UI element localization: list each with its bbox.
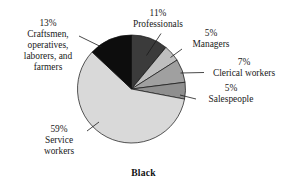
label-professionals: 11% Professionals xyxy=(110,8,206,30)
label-professionals-pct: 11% xyxy=(110,8,206,19)
label-clerical-workers: 7% Clerical workers xyxy=(203,57,285,79)
label-craftsmen-name-line3: laborers, and xyxy=(5,51,91,62)
leader-line-clerical-workers xyxy=(181,73,205,74)
label-clerical-workers-pct: 7% xyxy=(203,57,285,68)
label-craftsmen: 13% Craftsmen, operatives, laborers, and… xyxy=(5,18,91,73)
label-managers-name: Managers xyxy=(178,39,244,50)
label-craftsmen-pct: 13% xyxy=(5,18,91,29)
label-managers: 5% Managers xyxy=(178,28,244,50)
label-service-workers: 59% Service workers xyxy=(28,124,90,157)
chart-title: Black xyxy=(0,167,287,178)
label-craftsmen-name-line2: operatives, xyxy=(5,40,91,51)
label-service-workers-name-line1: Service xyxy=(28,135,90,146)
pie-slices xyxy=(77,35,185,143)
label-managers-pct: 5% xyxy=(178,28,244,39)
label-craftsmen-name-line4: farmers xyxy=(5,62,91,73)
label-salespeople: 5% Salespeople xyxy=(193,83,269,105)
label-salespeople-name: Salespeople xyxy=(193,94,269,105)
label-service-workers-pct: 59% xyxy=(28,124,90,135)
label-clerical-workers-name: Clerical workers xyxy=(203,68,285,79)
label-service-workers-name-line2: workers xyxy=(28,146,90,157)
label-salespeople-pct: 5% xyxy=(193,83,269,94)
pie-chart-figure: 11% Professionals 5% Managers 7% Clerica… xyxy=(0,0,287,188)
label-craftsmen-name-line1: Craftsmen, xyxy=(5,29,91,40)
